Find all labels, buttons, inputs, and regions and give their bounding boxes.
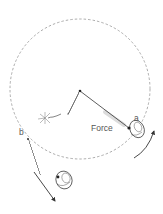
broken-string — [67, 91, 80, 114]
object-b-string — [28, 139, 41, 175]
point-b-marker — [27, 138, 29, 140]
motion-arrow-b — [34, 172, 55, 201]
point-b-label: b — [19, 127, 24, 137]
object-b-icon — [53, 169, 74, 191]
broken-string-tail — [48, 114, 61, 118]
force-label: Force — [91, 123, 113, 133]
circular-path — [10, 19, 150, 159]
centripetal-force-diagram: Force a b — [0, 0, 163, 214]
point-a-label: a — [134, 113, 139, 123]
